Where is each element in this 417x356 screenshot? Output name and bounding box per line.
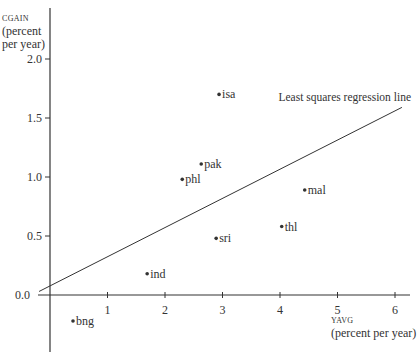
data-point-sri: sri <box>214 231 231 245</box>
regression-line-label: Least squares regression line <box>278 91 411 104</box>
point-label: phl <box>185 172 201 186</box>
data-points: bngindphlpakisasrithlmal <box>71 87 326 328</box>
point-label: mal <box>308 183 327 197</box>
data-point-phl: phl <box>180 172 201 186</box>
point-marker <box>303 188 307 192</box>
y-tick-label: 1.5 <box>27 111 42 125</box>
x-tick-label: 3 <box>220 303 226 317</box>
regression-line-path <box>39 107 402 291</box>
data-point-isa: isa <box>217 87 236 101</box>
point-label: bng <box>76 314 94 328</box>
point-marker <box>199 162 203 166</box>
point-label: sri <box>219 231 232 245</box>
scatter-plot: 0.00.51.01.52.0123456 Least squares regr… <box>0 0 417 356</box>
x-tick-label: 6 <box>392 303 398 317</box>
regression-line: Least squares regression line <box>39 91 411 291</box>
data-point-mal: mal <box>303 183 326 197</box>
point-marker <box>214 237 218 241</box>
point-marker <box>180 178 184 182</box>
point-marker <box>217 93 221 97</box>
point-label: ind <box>150 267 165 281</box>
x-tick-label: 4 <box>277 303 283 317</box>
point-marker <box>280 225 284 229</box>
data-point-pak: pak <box>199 157 221 171</box>
data-point-bng: bng <box>71 314 94 328</box>
point-label: isa <box>222 87 236 101</box>
point-label: pak <box>204 157 221 171</box>
point-label: thl <box>285 220 298 234</box>
x-tick-label: 2 <box>162 303 168 317</box>
data-point-ind: ind <box>145 267 165 281</box>
x-tick-label: 5 <box>335 303 341 317</box>
y-tick-label: 2.0 <box>27 52 42 66</box>
y-tick-label: 0.5 <box>27 229 42 243</box>
y-tick-label: 0.0 <box>15 288 30 302</box>
y-tick-label: 1.0 <box>27 170 42 184</box>
data-point-thl: thl <box>280 220 298 234</box>
x-tick-label: 1 <box>105 303 111 317</box>
point-marker <box>145 272 149 276</box>
axes: 0.00.51.01.52.0123456 <box>15 8 410 352</box>
point-marker <box>71 319 75 323</box>
